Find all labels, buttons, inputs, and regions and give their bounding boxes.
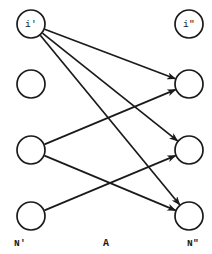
outer-labels-layer: N'AN"	[14, 238, 199, 249]
node-circle-r4[interactable]	[175, 202, 203, 230]
caption-right-set: N"	[187, 238, 199, 249]
diagram-canvas: i'i" N'AN"	[0, 0, 212, 254]
node-r2[interactable]	[175, 70, 203, 98]
edge-l1-to-r3	[42, 33, 177, 141]
edges-layer	[40, 29, 179, 210]
node-circle-r2[interactable]	[175, 70, 203, 98]
edge-l3-to-r2	[44, 90, 175, 145]
node-label-l1: i'	[25, 19, 37, 30]
node-circle-r3[interactable]	[175, 136, 203, 164]
node-r1[interactable]: i"	[175, 10, 203, 38]
node-circle-l3[interactable]	[17, 136, 45, 164]
node-r3[interactable]	[175, 136, 203, 164]
node-r4[interactable]	[175, 202, 203, 230]
node-circle-l2[interactable]	[17, 70, 45, 98]
node-l1[interactable]: i'	[17, 10, 45, 38]
edge-l1-to-r2	[45, 29, 176, 79]
edge-l1-to-r4	[40, 35, 179, 204]
node-l4[interactable]	[17, 202, 45, 230]
node-circle-l4[interactable]	[17, 202, 45, 230]
bipartite-diagram-svg: i'i" N'AN"	[0, 0, 212, 254]
node-label-r1: i"	[183, 19, 195, 30]
node-l3[interactable]	[17, 136, 45, 164]
node-l2[interactable]	[17, 70, 45, 98]
caption-center: A	[103, 238, 109, 249]
caption-left-set: N'	[14, 238, 26, 249]
